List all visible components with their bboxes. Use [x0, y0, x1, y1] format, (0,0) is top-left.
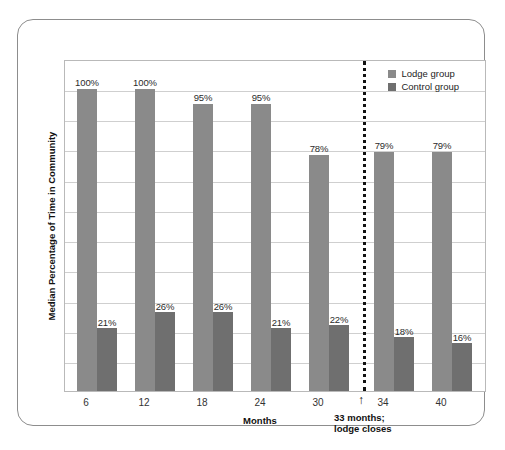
value-label-control-24: 21%	[259, 317, 303, 328]
bar-control-12[interactable]	[155, 312, 175, 391]
x-tick-label-30: 30	[296, 397, 340, 408]
legend-swatch-icon-lodge	[388, 70, 396, 78]
figure-frame: 100% 100% 95% 95% 78% 79% 79% 21% 26% 26…	[17, 19, 485, 426]
x-tick-label-40: 40	[419, 397, 463, 408]
bar-lodge-18[interactable]	[193, 104, 213, 391]
lodge-closes-divider-line	[363, 61, 366, 391]
legend-swatch-icon-control	[388, 83, 396, 91]
value-label-lodge-18: 95%	[181, 92, 225, 103]
legend-label-lodge: Lodge group	[401, 68, 454, 79]
lodge-closes-arrow-icon: ↑	[358, 394, 364, 406]
gridline	[65, 272, 485, 273]
legend-label-control: Control group	[401, 81, 459, 92]
x-axis-title: Months	[238, 415, 282, 426]
bar-lodge-34[interactable]	[374, 152, 394, 391]
bar-lodge-12[interactable]	[135, 89, 155, 391]
value-label-control-30: 22%	[317, 314, 361, 325]
value-label-lodge-24: 95%	[239, 92, 283, 103]
bar-control-40[interactable]	[452, 343, 472, 391]
value-label-control-18: 26%	[201, 301, 245, 312]
x-tick-label-18: 18	[180, 397, 224, 408]
value-label-control-34: 18%	[382, 326, 426, 337]
bar-control-30[interactable]	[329, 325, 349, 391]
value-label-control-40: 16%	[440, 332, 484, 343]
bar-lodge-6[interactable]	[77, 89, 97, 391]
value-label-control-6: 21%	[85, 317, 129, 328]
value-label-lodge-6: 100%	[65, 77, 109, 88]
value-label-control-12: 26%	[143, 301, 187, 312]
lodge-closes-annotation: 33 months; lodge closes	[334, 412, 392, 434]
gridline	[65, 242, 485, 243]
y-axis-title: Median Percentage of Time in Community	[46, 60, 60, 392]
gridline	[65, 212, 485, 213]
value-label-lodge-34: 79%	[362, 140, 406, 151]
x-tick-label-12: 12	[122, 397, 166, 408]
gridline	[65, 182, 485, 183]
bar-lodge-24[interactable]	[251, 104, 271, 391]
bar-control-6[interactable]	[97, 328, 117, 391]
value-label-lodge-12: 100%	[123, 77, 167, 88]
gridline	[65, 151, 485, 152]
legend: Lodge group Control group	[388, 68, 459, 94]
annotation-line-2: lodge closes	[334, 423, 392, 434]
annotation-line-1: 33 months;	[334, 412, 392, 423]
bar-lodge-40[interactable]	[432, 152, 452, 391]
legend-item-control-group[interactable]: Control group	[388, 81, 459, 92]
legend-item-lodge-group[interactable]: Lodge group	[388, 68, 459, 79]
value-label-lodge-40: 79%	[420, 140, 464, 151]
value-label-lodge-30: 78%	[297, 143, 341, 154]
x-tick-label-34: 34	[361, 397, 405, 408]
bar-control-24[interactable]	[271, 328, 291, 391]
gridline	[65, 121, 485, 122]
x-tick-label-6: 6	[64, 397, 108, 408]
bar-lodge-30[interactable]	[309, 155, 329, 391]
bar-control-34[interactable]	[394, 337, 414, 391]
plot-area: 100% 100% 95% 95% 78% 79% 79% 21% 26% 26…	[64, 60, 486, 392]
x-tick-label-24: 24	[238, 397, 282, 408]
gridline	[65, 303, 485, 304]
bar-control-18[interactable]	[213, 312, 233, 391]
